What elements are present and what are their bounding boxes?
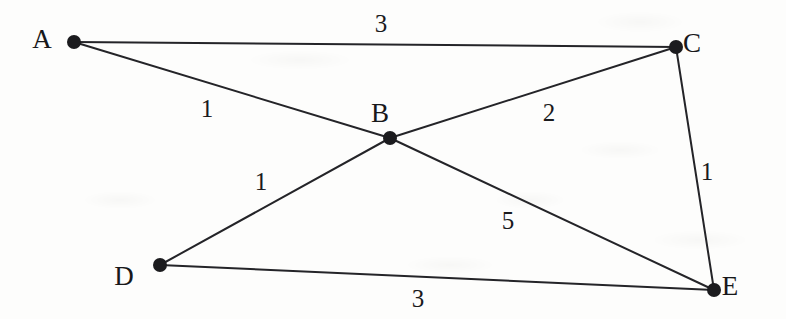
edge-weight-b-e: 5: [502, 207, 515, 234]
edge-weight-a-c: 3: [375, 10, 388, 37]
graph-edge-a-c: [74, 42, 676, 47]
edge-weight-b-d: 1: [255, 168, 268, 195]
graph-edge-a-b: [74, 42, 390, 138]
graph-edge-d-e: [160, 265, 714, 290]
node-label-a: A: [32, 24, 52, 54]
graph-node-b: [383, 131, 397, 145]
graph-node-e: [707, 283, 721, 297]
edge-weight-layer: 3121513: [201, 10, 714, 312]
graph-figure: 3121513 ABCDE: [0, 0, 786, 319]
graph-node-c: [669, 40, 683, 54]
graph-node-d: [153, 258, 167, 272]
graph-edge-b-e: [390, 138, 714, 290]
edge-layer: [74, 42, 714, 290]
node-label-b: B: [371, 98, 389, 128]
node-label-c: C: [683, 28, 701, 58]
node-layer: [67, 35, 721, 297]
edge-weight-d-e: 3: [412, 285, 425, 312]
node-label-e: E: [722, 271, 739, 301]
graph-edge-b-c: [390, 47, 676, 138]
graph-node-a: [67, 35, 81, 49]
edge-weight-b-c: 2: [543, 99, 556, 126]
graph-edge-b-d: [160, 138, 390, 265]
node-label-d: D: [114, 261, 134, 291]
graph-canvas: 3121513 ABCDE: [0, 0, 786, 319]
node-label-layer: ABCDE: [32, 24, 738, 301]
edge-weight-a-b: 1: [201, 95, 214, 122]
edge-weight-c-e: 1: [701, 158, 714, 185]
